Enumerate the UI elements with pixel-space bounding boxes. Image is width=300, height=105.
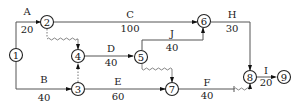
edge-F-float [234,84,250,90]
activity-label-J: J [169,28,174,39]
activity-label-C: C [126,9,134,20]
activity-duration-F: 40 [201,90,214,101]
activity-duration-C: 100 [120,23,139,34]
dummy-2-4-wavy [47,38,78,49]
node-2: 2 [41,16,54,29]
dummy-5-7-wavy [142,63,172,82]
activity-label-I: I [264,65,268,76]
node-7: 7 [166,83,179,96]
node-9: 9 [278,71,291,84]
node-5-label: 5 [138,52,144,63]
node-7-label: 7 [169,84,175,95]
node-4-label: 4 [75,51,81,62]
activity-duration-E: 60 [112,91,125,102]
activity-label-B: B [40,74,47,85]
node-3-label: 3 [75,84,81,95]
node-5: 5 [135,51,148,64]
activity-duration-B: 40 [38,92,51,103]
node-8: 8 [244,71,257,84]
activity-label-A: A [22,6,31,17]
node-3: 3 [72,83,85,96]
node-2-label: 2 [44,17,50,28]
node-1-label: 1 [13,50,19,61]
activity-duration-I: 20 [260,77,273,88]
activity-label-F: F [204,77,211,88]
activity-duration-A: 20 [21,24,34,35]
activity-duration-H: 30 [226,23,239,34]
node-6: 6 [198,15,211,28]
node-1: 1 [10,49,23,62]
activity-label-H: H [228,9,237,20]
activity-duration-J: 40 [166,42,179,53]
activity-label-E: E [114,76,121,87]
activity-label-D: D [107,43,115,54]
arrowhead-D [128,54,134,58]
activity-duration-D: 40 [105,57,118,68]
network-diagram: A 20 B 40 C 100 D 40 E 60 J 40 F 40 H 30… [0,0,300,105]
node-8-label: 8 [247,72,253,83]
node-6-label: 6 [201,16,207,27]
arrowhead-dummy-3-4 [76,63,80,69]
node-9-label: 9 [281,72,287,83]
node-4: 4 [72,50,85,63]
